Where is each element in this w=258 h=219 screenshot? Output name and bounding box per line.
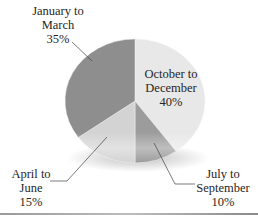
label-oct-dec-pct: 40% [137, 95, 205, 109]
label-jan-mar-pct: 35% [22, 32, 94, 46]
label-jul-sep-pct: 10% [192, 195, 254, 209]
label-jan-mar: January to March 35% [22, 4, 94, 46]
label-jul-sep-line1: July to [192, 167, 254, 181]
label-jan-mar-line1: January to [22, 4, 94, 18]
label-apr-jun-line1: April to [10, 167, 52, 181]
label-jul-sep-line2: September [192, 181, 254, 195]
label-oct-dec: October to December 40% [137, 67, 205, 109]
label-jan-mar-line2: March [22, 18, 94, 32]
label-apr-jun-line2: June [10, 181, 52, 195]
label-apr-jun: April to June 15% [10, 167, 52, 209]
label-oct-dec-line1: October to [137, 67, 205, 81]
label-jul-sep: July to September 10% [192, 167, 254, 209]
label-oct-dec-line2: December [137, 81, 205, 95]
label-apr-jun-pct: 15% [10, 195, 52, 209]
bottom-rule [0, 213, 258, 215]
